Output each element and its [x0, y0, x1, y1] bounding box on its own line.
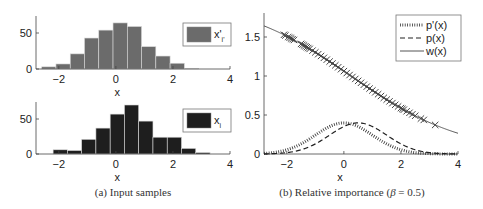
caption-b: (b) Relative importance (β = 0.5) [279, 186, 425, 199]
histogram-bar [167, 137, 181, 154]
histogram-bar [127, 27, 141, 69]
x-axis-label: x [115, 86, 121, 98]
histogram-bar [110, 114, 124, 154]
sample-marker [421, 117, 427, 123]
y-tick-label: 0 [26, 63, 32, 75]
x-tick-label: 4 [455, 158, 461, 170]
legend: p'(x)p(x)w(x) [396, 15, 461, 61]
x-tick-label: 0 [113, 158, 119, 170]
x-tick-label: 4 [227, 158, 233, 170]
histogram-bar [85, 38, 99, 69]
legend-label: p(x) [426, 32, 445, 44]
legend: xi [183, 109, 231, 132]
hist-top-panel: 050−2024xx'i' [20, 16, 233, 98]
x-tick-label: 2 [170, 158, 176, 170]
legend-label: w(x) [425, 45, 447, 57]
legend-swatch [187, 113, 211, 128]
legend: x'i' [183, 23, 231, 46]
p-prime-curve [264, 123, 458, 154]
caption-a: (a) Input samples [95, 186, 171, 199]
x-axis-label: x [337, 171, 343, 183]
figure: 050−2024xx'i'050−2024xxi00.511.5−2024xp'… [0, 0, 483, 209]
histogram-bar [99, 30, 113, 69]
histogram-bar [156, 56, 170, 69]
y-tick-label: 1 [254, 70, 260, 82]
histogram-bar [182, 148, 196, 154]
histogram-bar [124, 105, 138, 154]
y-tick-label: 50 [20, 27, 32, 39]
x-tick-label: 2 [398, 158, 404, 170]
histogram-bar [113, 23, 127, 69]
histogram-bar [67, 151, 81, 155]
legend-label: p'(x) [426, 19, 447, 31]
p-curve [264, 123, 458, 154]
relative-importance-panel: 00.511.5−2024xp'(x)p(x)w(x) [245, 13, 461, 183]
legend-swatch [187, 27, 211, 42]
x-tick-label: −2 [53, 158, 66, 170]
histogram-bar [170, 63, 184, 69]
hist-bottom-panel: 050−2024xxi [20, 102, 233, 183]
histogram-bar [70, 54, 84, 69]
y-tick-label: 0 [254, 148, 260, 160]
histogram-bar [153, 137, 167, 154]
histogram-bar [142, 47, 156, 69]
histogram-bar [53, 150, 67, 154]
x-tick-label: −2 [281, 158, 294, 170]
x-tick-label: 4 [227, 73, 233, 85]
y-tick-label: 0 [26, 148, 32, 160]
x-tick-label: −2 [53, 73, 66, 85]
x-tick-label: 0 [113, 73, 119, 85]
sample-marker [432, 122, 438, 128]
histogram-bar [56, 64, 70, 69]
x-axis-label: x [115, 171, 121, 183]
x-tick-label: 2 [170, 73, 176, 85]
y-tick-label: 0.5 [245, 109, 260, 121]
y-tick-label: 1.5 [245, 31, 260, 43]
y-tick-label: 50 [20, 113, 32, 125]
histogram-bar [96, 128, 110, 154]
x-tick-label: 0 [341, 158, 347, 170]
histogram-bar [139, 121, 153, 154]
histogram-bar [82, 139, 96, 154]
